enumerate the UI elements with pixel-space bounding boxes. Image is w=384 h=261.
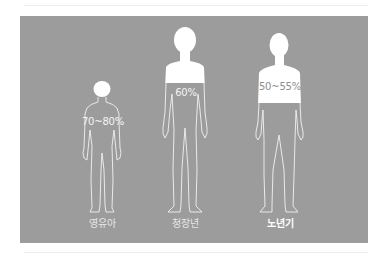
adult-percentage: 60% xyxy=(175,87,197,98)
elderly-label: 노년기 xyxy=(267,215,294,230)
infant-label: 영유아 xyxy=(89,215,116,230)
adult-figure xyxy=(163,27,208,212)
infant-head xyxy=(94,81,111,97)
bottom-divider xyxy=(24,252,368,253)
elderly-percentage: 50~55% xyxy=(259,81,301,92)
elderly-figure xyxy=(256,33,304,212)
infant-percentage: 70~80% xyxy=(82,116,124,127)
infant-figure xyxy=(83,81,121,212)
adult-label: 청장년 xyxy=(172,215,199,230)
